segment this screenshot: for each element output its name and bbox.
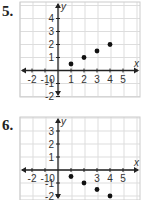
svg-text:5: 5 (120, 74, 126, 85)
svg-text:1: 1 (48, 52, 54, 63)
svg-text:-2: -2 (28, 173, 37, 184)
svg-text:4: 4 (107, 173, 113, 184)
scatter-chart-6: -2-10345321-1-2xy (0, 116, 145, 200)
svg-text:5: 5 (120, 173, 126, 184)
svg-text:4: 4 (48, 13, 54, 24)
svg-text:1: 1 (68, 74, 74, 85)
svg-text:-2: -2 (45, 91, 54, 100)
svg-text:-1: -1 (45, 178, 54, 189)
svg-text:-2: -2 (28, 74, 37, 85)
svg-text:3: 3 (94, 173, 100, 184)
svg-text:y: y (60, 116, 67, 127)
svg-text:2: 2 (48, 139, 54, 150)
svg-text:x: x (133, 58, 140, 69)
svg-text:-2: -2 (45, 191, 54, 201)
svg-text:-1: -1 (45, 78, 54, 89)
svg-text:y: y (60, 1, 67, 12)
svg-text:1: 1 (48, 152, 54, 163)
svg-text:x: x (133, 157, 140, 168)
svg-text:3: 3 (94, 74, 100, 85)
svg-text:3: 3 (48, 26, 54, 37)
svg-text:3: 3 (48, 126, 54, 137)
scatter-chart-5: -2-10123454321-1-2xy (0, 0, 145, 100)
svg-text:2: 2 (48, 39, 54, 50)
svg-text:2: 2 (81, 74, 87, 85)
svg-text:4: 4 (107, 74, 113, 85)
